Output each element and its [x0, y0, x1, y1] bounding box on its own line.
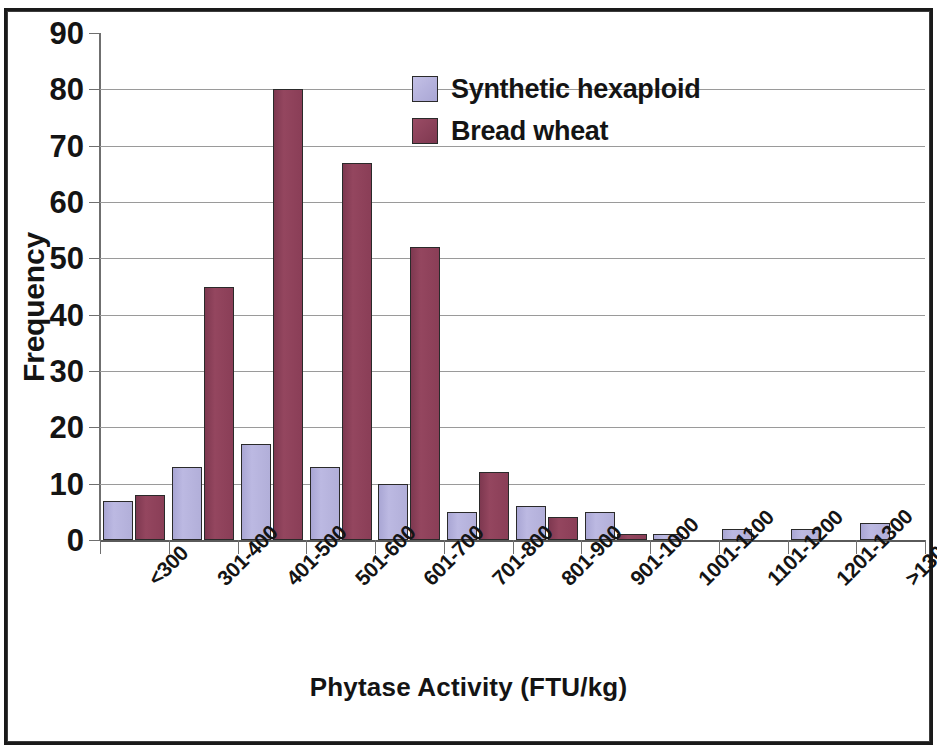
y-tick-label-60: 60 — [50, 187, 84, 218]
y-tick-label-80: 80 — [50, 74, 84, 105]
y-tick-label-90: 90 — [50, 18, 84, 49]
bar-bread-wheat-501-600 — [342, 163, 372, 540]
y-tick-mark-70 — [89, 146, 100, 147]
bar-bread-wheat-<300 — [135, 495, 165, 540]
legend-item-bread: Bread wheat — [412, 110, 700, 152]
gridline-50 — [100, 258, 925, 259]
legend-label-bread: Bread wheat — [451, 116, 608, 147]
y-axis-title: Frequency — [17, 187, 51, 427]
x-axis-label-601-700: 601-700 — [419, 574, 436, 591]
y-tick-mark-20 — [89, 427, 100, 428]
x-axis-label-1201-1300: 1201-1300 — [831, 574, 848, 591]
y-tick-label-10: 10 — [50, 468, 84, 499]
y-axis-line — [99, 33, 101, 540]
y-tick-label-40: 40 — [50, 299, 84, 330]
bar-bread-wheat-701-800 — [479, 472, 509, 540]
x-axis-title: Phytase Activity (FTU/kg) — [0, 672, 937, 703]
y-tick-label-30: 30 — [50, 356, 84, 387]
y-tick-mark-40 — [89, 315, 100, 316]
x-axis-label-1001-1100: 1001-1100 — [694, 574, 711, 591]
bar-bread-wheat-401-500 — [273, 89, 303, 540]
y-tick-mark-30 — [89, 371, 100, 372]
x-axis-label-801-900: 801-900 — [556, 574, 573, 591]
y-tick-mark-90 — [89, 33, 100, 34]
legend-swatch-synthetic-icon — [412, 76, 438, 102]
bar-synthetic-hexaploid-<300 — [103, 501, 133, 540]
legend-swatch-bread-icon — [412, 118, 438, 144]
y-tick-mark-10 — [89, 484, 100, 485]
x-axis-label-301-400: 301-400 — [213, 574, 230, 591]
y-tick-mark-80 — [89, 89, 100, 90]
bar-bread-wheat-301-400 — [204, 287, 234, 541]
y-tick-mark-0 — [89, 540, 100, 541]
y-tick-label-70: 70 — [50, 130, 84, 161]
x-axis-label-1101-1200: 1101-1200 — [763, 574, 780, 591]
bar-synthetic-hexaploid-301-400 — [172, 467, 202, 540]
y-tick-mark-50 — [89, 258, 100, 259]
y-tick-label-20: 20 — [50, 412, 84, 443]
y-tick-mark-60 — [89, 202, 100, 203]
legend-label-synthetic: Synthetic hexaploid — [451, 74, 700, 105]
x-axis-label-701-800: 701-800 — [488, 574, 505, 591]
x-tick-mark-0 — [100, 540, 101, 554]
gridline-60 — [100, 202, 925, 203]
bar-bread-wheat-601-700 — [410, 247, 440, 540]
x-axis-label-501-600: 501-600 — [350, 574, 367, 591]
chart-page: Frequency 0102030405060708090 <300301-40… — [0, 0, 937, 749]
legend-item-synthetic: Synthetic hexaploid — [412, 68, 700, 110]
x-axis-label-401-500: 401-500 — [281, 574, 298, 591]
y-tick-label-50: 50 — [50, 243, 84, 274]
x-axis-label-901-1000: 901-1000 — [625, 574, 642, 591]
y-tick-label-0: 0 — [67, 525, 84, 556]
x-axis-label-<300: <300 — [144, 574, 161, 591]
x-axis-label->1300: >1300 — [900, 574, 917, 591]
chart-legend: Synthetic hexaploidBread wheat — [412, 68, 700, 152]
